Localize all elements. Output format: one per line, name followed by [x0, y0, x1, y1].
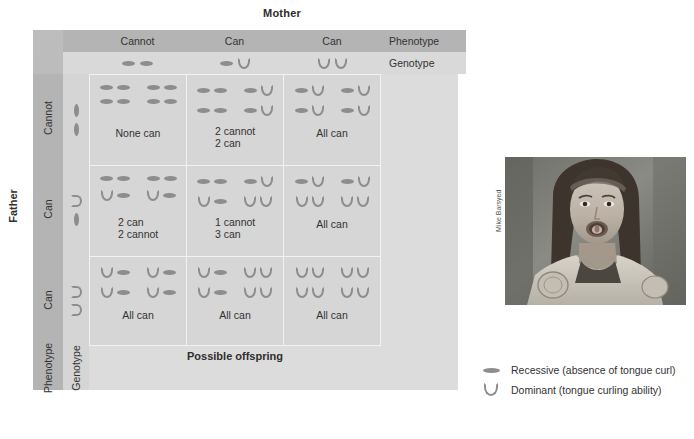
offspring-grid — [187, 85, 283, 125]
allele-dominant-icon — [260, 196, 272, 207]
legend-item-recessive: Recessive (absence of tongue curl) — [480, 364, 690, 376]
allele-recessive-icon — [214, 270, 227, 275]
allele-dominant-icon — [244, 267, 256, 278]
offspring-row — [90, 190, 186, 201]
allele-dominant-icon — [296, 196, 308, 207]
offspring-row — [90, 99, 186, 104]
mother-col-0-phenotype: Cannot — [89, 30, 186, 52]
offspring-row — [187, 267, 283, 278]
allele-recessive-icon — [214, 88, 227, 93]
offspring-genotype — [244, 196, 272, 207]
punnett-cell[interactable]: 1 cannot3 can — [187, 166, 284, 257]
legend-label-recessive: Recessive (absence of tongue curl) — [511, 364, 676, 376]
offspring-grid — [187, 176, 283, 216]
bottom-label-phenotype-band: Phenotype — [33, 346, 63, 390]
allele-dominant-icon — [261, 105, 273, 116]
punnett-cell[interactable]: All can — [284, 166, 380, 257]
allele-recessive-icon — [197, 108, 210, 113]
cell-verdict: All can — [284, 218, 380, 230]
allele-dominant-icon — [312, 267, 324, 278]
allele-dominant-icon — [198, 267, 210, 278]
offspring-row — [187, 176, 283, 187]
allele-dominant-icon — [260, 287, 272, 298]
allele-dominant-icon — [71, 195, 82, 207]
offspring-genotype — [198, 267, 227, 278]
allele-recessive-icon — [117, 193, 130, 198]
allele-recessive-icon — [147, 176, 160, 181]
right-label-phenotype: Phenotype — [381, 30, 466, 52]
allele-dominant-icon — [357, 267, 369, 278]
offspring-genotype — [341, 85, 370, 96]
punnett-cell[interactable]: All can — [187, 257, 284, 345]
allele-recessive-icon — [295, 108, 308, 113]
allele-recessive-icon — [100, 85, 113, 90]
offspring-row — [284, 267, 380, 278]
offspring-genotype — [197, 105, 227, 116]
offspring-row — [90, 85, 186, 90]
punnett-cell[interactable]: All can — [284, 75, 380, 166]
allele-dominant-icon — [358, 176, 370, 187]
bottom-label-genotype: Genotype — [70, 325, 82, 411]
offspring-genotype — [341, 267, 369, 278]
allele-dominant-icon — [261, 176, 273, 187]
offspring-genotype — [100, 85, 130, 90]
punnett-cell[interactable]: 2 can2 cannot — [90, 166, 187, 257]
punnett-cell[interactable]: All can — [90, 257, 187, 345]
offspring-row — [187, 85, 283, 96]
offspring-genotype — [101, 190, 130, 201]
offspring-genotype — [244, 105, 273, 116]
allele-recessive-icon — [122, 61, 135, 66]
offspring-grid — [187, 267, 283, 307]
mother-col-1-phenotype: Can — [186, 30, 283, 52]
allele-dominant-icon — [335, 58, 347, 69]
offspring-row — [284, 105, 380, 116]
offspring-row — [90, 267, 186, 278]
allele-dominant-icon — [357, 196, 369, 207]
allele-recessive-icon — [147, 99, 160, 104]
allele-recessive-icon — [163, 193, 176, 198]
punnett-grid: None can2 cannot2 canAll can2 can2 canno… — [89, 74, 381, 346]
cell-verdict: All can — [284, 309, 380, 321]
offspring-genotype — [197, 85, 227, 96]
allele-recessive-icon — [74, 104, 79, 117]
punnett-cell[interactable]: 2 cannot2 can — [187, 75, 284, 166]
offspring-genotype — [198, 287, 227, 298]
offspring-row — [90, 176, 186, 181]
offspring-genotype — [100, 99, 130, 104]
punnett-cell[interactable]: All can — [284, 257, 380, 345]
allele-dominant-icon — [101, 190, 113, 201]
allele-recessive-icon — [164, 176, 177, 181]
allele-dominant-icon — [101, 287, 113, 298]
allele-recessive-icon — [117, 270, 130, 275]
offspring-genotype — [296, 267, 324, 278]
offspring-row — [284, 176, 380, 187]
offspring-grid — [284, 85, 380, 125]
tongue-curling-photo — [505, 157, 686, 305]
allele-dominant-icon — [358, 85, 370, 96]
offspring-genotype — [295, 176, 324, 187]
allele-recessive-icon — [480, 368, 502, 373]
offspring-grid — [90, 267, 186, 307]
offspring-row — [187, 196, 283, 207]
offspring-genotype — [197, 176, 227, 187]
offspring-genotype — [101, 267, 130, 278]
allele-dominant-icon — [318, 58, 330, 69]
offspring-grid — [284, 176, 380, 216]
offspring-genotype — [244, 176, 273, 187]
allele-dominant-icon — [244, 196, 256, 207]
offspring-grid — [90, 176, 186, 210]
mother-col-2-genotype — [283, 52, 381, 74]
allele-dominant-icon — [312, 196, 324, 207]
offspring-genotype — [296, 287, 324, 298]
cell-verdict: All can — [90, 309, 186, 321]
allele-recessive-icon — [100, 99, 113, 104]
allele-recessive-icon — [117, 99, 130, 104]
offspring-row — [284, 85, 380, 96]
offspring-genotype — [341, 105, 370, 116]
offspring-genotype — [341, 287, 369, 298]
allele-recessive-icon — [74, 213, 79, 226]
allele-recessive-icon — [341, 88, 354, 93]
cell-verdict: All can — [284, 127, 380, 139]
offspring-row — [284, 196, 380, 207]
punnett-cell[interactable]: None can — [90, 75, 187, 166]
